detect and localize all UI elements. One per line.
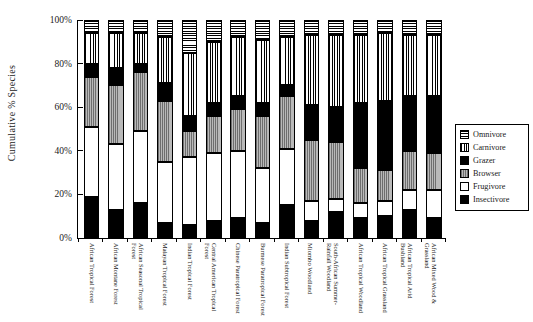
bar-segment-omnivore (230, 20, 246, 37)
bar-segment-carnivore (206, 42, 222, 103)
bar-segment-carnivore (182, 53, 198, 116)
bar-african-tropical-woodland[interactable] (353, 20, 369, 238)
bar-segment-frugivore (377, 201, 393, 216)
x-tick-mark (200, 238, 201, 242)
bar-segment-browser (182, 131, 198, 157)
x-tick-mark (102, 238, 103, 242)
bar-segment-omnivore (182, 20, 198, 53)
x-tick-mark (323, 238, 324, 242)
bar-segment-grazer (255, 103, 271, 116)
x-tick-label: Indian Subtropical Forest (269, 243, 291, 321)
bar-segment-frugivore (353, 203, 369, 218)
bar-south-african-summer-rainfall-woodland[interactable] (328, 20, 344, 238)
legend-item-frugivore[interactable]: Frugivore (460, 180, 524, 193)
bar-african-tropical-grassland[interactable] (377, 20, 393, 238)
bar-segment-omnivore (157, 20, 173, 37)
bar-indian-subtropical-forest[interactable] (279, 20, 295, 238)
bar-series-container (78, 20, 445, 238)
x-tick-label: African Tropical Arid Bushland (392, 243, 414, 321)
legend-swatch-grazer (460, 156, 469, 165)
x-tick-label: African Montane Forest (98, 243, 120, 321)
bar-segment-browser (133, 72, 149, 131)
bar-segment-grazer (377, 101, 393, 171)
bar-segment-carnivore (133, 33, 149, 64)
x-tick-label: Central American Tropical Forest (196, 243, 218, 321)
x-tick-mark (151, 238, 152, 242)
y-tick-label: 20% (55, 189, 78, 199)
x-tick-mark (225, 238, 226, 242)
bar-segment-browser (426, 153, 442, 190)
bar-indian-tropical-forest[interactable] (182, 20, 198, 238)
bar-segment-insectivore (377, 216, 393, 238)
legend-item-grazer[interactable]: Grazer (460, 154, 524, 167)
bar-segment-insectivore (304, 221, 320, 238)
x-tick-label: Indian Tropical Forest (172, 243, 194, 321)
bar-segment-frugivore (328, 199, 344, 212)
bar-segment-omnivore (328, 20, 344, 35)
bar-segment-carnivore (402, 35, 418, 96)
bar-segment-omnivore (84, 20, 100, 33)
bar-segment-browser (255, 116, 271, 168)
bar-segment-browser (108, 85, 124, 144)
bar-segment-browser (230, 109, 246, 150)
bar-segment-browser (304, 140, 320, 201)
bar-segment-insectivore (182, 225, 198, 238)
y-tick-label: 100% (50, 15, 78, 25)
bar-segment-browser (84, 77, 100, 127)
legend-label: Carnivore (473, 143, 506, 152)
bar-african-tropical-forest[interactable] (84, 20, 100, 238)
bar-segment-grazer (157, 83, 173, 100)
legend-item-carnivore[interactable]: Carnivore (460, 141, 524, 154)
x-tick-label: African Seasonal Tropical Forest (123, 243, 145, 321)
bar-miombo-woodland[interactable] (304, 20, 320, 238)
bar-segment-frugivore (133, 131, 149, 203)
x-tick-label: Chinese Paratropical Forest (220, 243, 242, 321)
bar-segment-insectivore (279, 205, 295, 238)
bar-segment-frugivore (108, 144, 124, 209)
bar-malayan-tropical-forest[interactable] (157, 20, 173, 238)
bar-segment-browser (353, 168, 369, 203)
bar-segment-omnivore (279, 20, 295, 37)
plot-area: 0%20%40%60%80%100% (78, 20, 445, 238)
bar-segment-frugivore (206, 153, 222, 221)
bar-segment-omnivore (108, 20, 124, 33)
bar-african-montane-forest[interactable] (108, 20, 124, 238)
bar-segment-frugivore (304, 201, 320, 221)
bar-segment-frugivore (157, 162, 173, 223)
legend-swatch-browser (460, 169, 469, 178)
x-axis-labels: African Tropical ForestAfrican Montane F… (78, 243, 445, 322)
x-tick-mark (249, 238, 250, 242)
legend-label: Frugivore (473, 182, 505, 191)
bar-segment-insectivore (157, 223, 173, 238)
bar-african-mixed-wood-grassland[interactable] (426, 20, 442, 238)
bar-segment-insectivore (255, 223, 271, 238)
x-tick-mark (347, 238, 348, 242)
bar-segment-grazer (108, 68, 124, 85)
bar-african-seasonal-tropical-forest[interactable] (133, 20, 149, 238)
bar-segment-carnivore (328, 35, 344, 107)
bar-segment-insectivore (230, 218, 246, 238)
bar-segment-omnivore (133, 20, 149, 33)
bar-african-tropical-arid-bushland[interactable] (402, 20, 418, 238)
bar-segment-carnivore (353, 35, 369, 103)
legend-swatch-omnivore (460, 130, 469, 139)
legend-item-insectivore[interactable]: Insectivore (460, 193, 524, 206)
bar-segment-omnivore (255, 20, 271, 40)
bar-segment-grazer (206, 103, 222, 116)
bar-segment-omnivore (353, 20, 369, 35)
bar-segment-carnivore (426, 35, 442, 96)
bar-chinese-paratropical-forest[interactable] (230, 20, 246, 238)
bar-segment-carnivore (157, 37, 173, 83)
legend-item-omnivore[interactable]: Omnivore (460, 128, 524, 141)
x-tick-label: African Tropical Forest (74, 243, 96, 321)
legend-swatch-frugivore (460, 182, 469, 191)
bar-burmese-paratropical-forest[interactable] (255, 20, 271, 238)
bar-central-american-tropical-forest[interactable] (206, 20, 222, 238)
bar-segment-carnivore (84, 33, 100, 64)
bar-segment-browser (328, 142, 344, 199)
legend-item-browser[interactable]: Browser (460, 167, 524, 180)
bar-segment-carnivore (377, 33, 393, 101)
bar-segment-insectivore (206, 221, 222, 238)
bar-segment-omnivore (304, 20, 320, 35)
bar-segment-insectivore (328, 212, 344, 238)
